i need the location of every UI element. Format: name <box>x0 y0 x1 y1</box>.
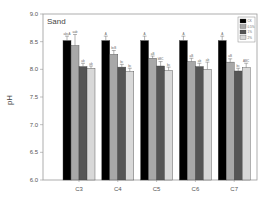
significance-label: bcB <box>111 46 116 50</box>
bar <box>157 66 165 180</box>
x-tick-label: C4 <box>114 186 122 192</box>
y-axis: 6.06.57.07.58.08.59.0 <box>30 11 43 183</box>
bar <box>126 72 134 180</box>
legend-label: 1% <box>248 30 253 34</box>
x-tick-label: C5 <box>153 186 161 192</box>
y-tick-label: 9.0 <box>30 11 39 17</box>
y-tick-label: 6.5 <box>30 149 39 155</box>
bar <box>187 62 195 180</box>
significance-label: bc <box>120 60 124 64</box>
y-tick-label: 7.5 <box>30 94 39 100</box>
significance-label: ab <box>89 62 93 66</box>
significance-label: A <box>221 32 223 36</box>
bar <box>226 62 234 180</box>
significance-label: ab <box>198 59 202 63</box>
significance-label: aB <box>190 54 194 58</box>
x-tick-label: C3 <box>75 186 83 192</box>
bar <box>234 71 242 180</box>
significance-label: A <box>105 32 107 36</box>
bar <box>71 46 79 180</box>
bar <box>218 41 226 180</box>
bar <box>87 68 95 180</box>
legend-swatch <box>240 36 246 40</box>
x-tick-label: C6 <box>192 186 200 192</box>
significance-label: abcA <box>64 32 71 36</box>
significance-label: aB <box>228 54 232 58</box>
bar <box>203 69 211 180</box>
y-axis-label: pH <box>5 95 14 105</box>
significance-label: aab <box>72 30 77 34</box>
y-tick-label: 7.0 <box>30 122 39 128</box>
legend-swatch <box>240 19 246 23</box>
bar <box>195 67 203 180</box>
significance-label: A <box>144 32 146 36</box>
significance-label: bc <box>128 64 132 68</box>
bar <box>102 41 110 180</box>
legend-swatch <box>240 30 246 34</box>
bar <box>149 58 157 180</box>
significance-label: bc <box>237 64 241 68</box>
significance-label: bc <box>167 63 171 67</box>
significance-label: ab <box>206 58 210 62</box>
bars: abcAaabababAbcBbcbcAaBbBCbcAaBababAaBbcA… <box>63 30 250 180</box>
legend: CK0.5%1%2% <box>238 17 255 42</box>
significance-label: ABC <box>243 59 250 63</box>
bar <box>118 67 126 180</box>
significance-label: bBC <box>158 57 165 61</box>
significance-label: ab <box>81 59 85 63</box>
bar <box>141 41 149 180</box>
y-tick-label: 8.5 <box>30 39 39 45</box>
significance-label: A <box>182 32 184 36</box>
legend-swatch <box>240 25 246 29</box>
x-tick-label: C7 <box>230 186 238 192</box>
y-tick-label: 6.0 <box>30 177 39 183</box>
legend-label: 0.5% <box>248 25 255 29</box>
bar <box>110 54 118 180</box>
legend-label: 2% <box>248 36 253 40</box>
bar <box>63 41 71 180</box>
bar-chart: 6.06.57.07.58.08.59.0 abcAaabababAbcBbcb… <box>0 0 277 202</box>
y-tick-label: 8.0 <box>30 66 39 72</box>
chart-title: Sand <box>47 17 66 26</box>
bar <box>165 70 173 180</box>
bar <box>242 68 250 180</box>
bar <box>79 67 87 180</box>
x-axis: C3C4C5C6C7 <box>75 180 239 192</box>
legend-label: CK <box>248 19 252 23</box>
significance-label: aB <box>151 52 155 56</box>
bar <box>179 41 187 180</box>
